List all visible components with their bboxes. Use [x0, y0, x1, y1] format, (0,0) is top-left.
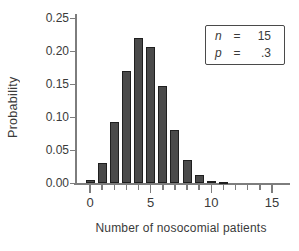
y-tick — [70, 150, 76, 152]
x-minor-tick — [247, 185, 249, 190]
y-tick-label: 0.25 — [31, 11, 69, 25]
legend-n-symbol: n — [215, 29, 229, 44]
y-axis-title: Probability — [6, 52, 20, 162]
bar-k11 — [219, 182, 228, 184]
x-tick-label: 15 — [259, 196, 285, 210]
bar-k2 — [110, 122, 119, 183]
y-tick-label: 0.20 — [31, 44, 69, 58]
legend-p-equals: = — [229, 46, 245, 61]
x-tick-label: 0 — [77, 196, 103, 210]
bar-k7 — [170, 130, 179, 183]
x-minor-tick — [138, 185, 140, 190]
y-tick — [70, 18, 76, 20]
y-tick — [70, 51, 76, 53]
x-minor-tick — [259, 185, 261, 190]
x-major-tick — [89, 185, 91, 193]
x-major-tick — [211, 185, 213, 193]
y-tick — [70, 84, 76, 86]
bar-k1 — [98, 163, 107, 183]
bar-k4 — [134, 38, 143, 183]
x-major-tick — [150, 185, 152, 193]
legend-n-value: 15 — [245, 29, 271, 44]
y-tick-label: 0.00 — [31, 176, 69, 190]
binomial-distribution-chart: Probability 0.000.050.100.150.200.250510… — [0, 0, 299, 251]
x-minor-tick — [223, 185, 225, 190]
legend-p-value: .3 — [245, 46, 271, 61]
bar-k5 — [146, 47, 155, 183]
x-axis-title: Number of nosocomial patients — [76, 221, 286, 235]
bar-k3 — [122, 71, 131, 183]
bar-k9 — [195, 175, 204, 183]
x-tick-label: 10 — [198, 196, 224, 210]
x-minor-tick — [101, 185, 103, 190]
y-tick — [70, 117, 76, 119]
bar-k0 — [86, 180, 95, 183]
x-minor-tick — [198, 185, 200, 190]
y-tick — [70, 183, 76, 185]
x-major-tick — [271, 185, 273, 193]
legend-box: n = 15 p = .3 — [205, 25, 285, 65]
x-minor-tick — [186, 185, 188, 190]
legend-row-p: p = .3 — [215, 46, 271, 61]
x-minor-tick — [162, 185, 164, 190]
legend-n-equals: = — [229, 29, 245, 44]
legend-row-n: n = 15 — [215, 29, 271, 44]
y-axis-line — [75, 14, 77, 184]
x-tick-label: 5 — [138, 196, 164, 210]
bar-k10 — [207, 181, 216, 183]
y-tick-label: 0.05 — [31, 143, 69, 157]
y-tick-label: 0.10 — [31, 110, 69, 124]
bar-k8 — [183, 160, 192, 183]
x-minor-tick — [114, 185, 116, 190]
x-minor-tick — [235, 185, 237, 190]
x-minor-tick — [174, 185, 176, 190]
bar-k6 — [158, 86, 167, 183]
y-tick-label: 0.15 — [31, 77, 69, 91]
x-minor-tick — [126, 185, 128, 190]
legend-p-symbol: p — [215, 46, 229, 61]
x-axis-line — [74, 183, 290, 185]
